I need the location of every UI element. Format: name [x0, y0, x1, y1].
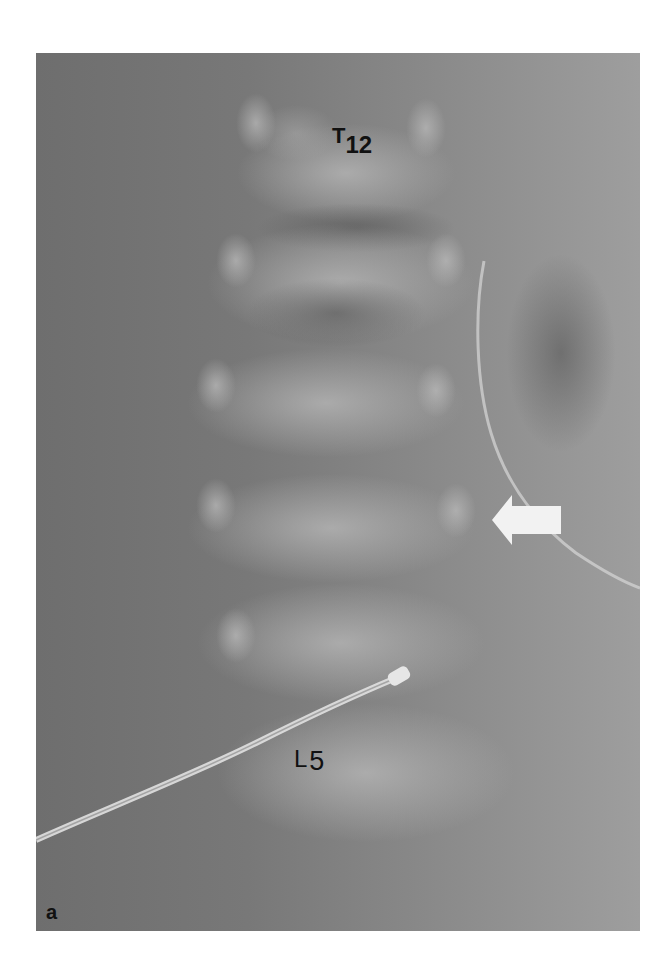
panel-label: a	[46, 901, 57, 924]
label-t12-number: 12	[345, 131, 372, 158]
label-l5-letter: L	[294, 745, 307, 772]
curved-line	[478, 261, 640, 588]
xray-overlay	[36, 53, 640, 931]
label-t12: T12	[332, 125, 372, 153]
label-l5-number: 5	[309, 746, 324, 776]
catheter-tip	[386, 664, 412, 687]
label-l5: L5	[294, 743, 324, 774]
label-t12-letter: T	[332, 123, 345, 148]
xray-image: T12 L5 a	[36, 53, 640, 931]
